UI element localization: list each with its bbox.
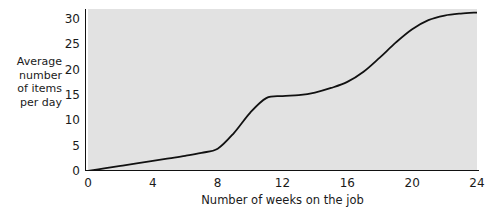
series-line-path xyxy=(88,13,477,171)
y-axis-line xyxy=(85,9,86,171)
x-tick-label: 8 xyxy=(203,177,233,189)
x-tick-label: 0 xyxy=(73,177,103,189)
y-tick-label: 25 xyxy=(54,38,80,50)
y-tick-label: 30 xyxy=(54,13,80,25)
x-tick-label: 24 xyxy=(462,177,492,189)
x-tick-label: 4 xyxy=(138,177,168,189)
y-tick-label: 20 xyxy=(54,64,80,76)
y-axis-title: Average number of items per day xyxy=(0,55,62,109)
y-tick-label: 0 xyxy=(54,165,80,177)
y-axis-title-line-3: of items xyxy=(0,82,62,96)
x-axis-title: Number of weeks on the job xyxy=(88,193,477,207)
y-tick-label: 15 xyxy=(54,89,80,101)
x-tick-label: 12 xyxy=(268,177,298,189)
x-axis-line xyxy=(85,170,479,171)
y-axis-title-line-4: per day xyxy=(0,96,62,110)
y-axis-title-line-1: Average xyxy=(0,55,62,69)
x-tick-label: 16 xyxy=(332,177,362,189)
y-tick-label: 10 xyxy=(54,114,80,126)
y-axis-title-line-2: number xyxy=(0,69,62,83)
chart-figure: Average number of items per day 0 5 10 1… xyxy=(0,0,502,215)
plot-area xyxy=(88,9,477,171)
x-tick-label: 20 xyxy=(397,177,427,189)
y-tick-label: 5 xyxy=(54,140,80,152)
data-line-series xyxy=(88,9,477,171)
